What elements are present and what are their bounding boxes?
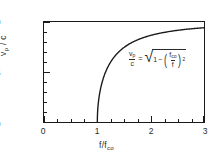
y-tick-label-1: 1.0 [0,17,1,27]
x-tick-label-2: 1 [95,126,100,136]
x-tick-label-3: 2 [149,126,154,136]
equation-inner-numerator: fco [168,51,177,60]
equation-inner-num-sub: co [171,53,176,59]
plot-area [43,21,205,123]
x-axis-title-main: f/f [99,140,107,150]
equation-annotation: vp c = √ 1 − ( fco f ) 2 [128,49,186,68]
y-tick-label-3: 0.0 [0,119,1,129]
equation-minus: − [158,56,162,63]
y-major-tick-0.0 [44,122,50,123]
curve-polyline [97,28,204,122]
equation-lhs-num-sub: p [133,52,136,58]
equation-inner-denominator: f [171,60,175,68]
equation-paren-close: ) [178,53,181,67]
y-axis-title: vp / c [0,35,9,56]
equation-paren-open: ( [164,53,167,67]
x-axis-title: f/fco [0,140,213,151]
chart-figure: vp / c 1.0 0.5 0.0 0 1 2 3 f/fco [0,0,213,155]
equation-lhs-denominator: c [129,59,135,67]
x-axis-title-subscript: co [107,144,114,151]
equation-equals-sign: = [138,55,142,62]
y-axis-title-rest: / c [0,35,8,48]
y-axis-title-main: v [0,51,8,56]
equation-radicand: 1 − ( fco f ) 2 [152,49,186,68]
y-tick-label-2: 0.5 [0,68,1,78]
y-axis-title-subscript: p [2,48,9,52]
equation-lhs-numerator: vp [128,50,136,59]
equation-exponent: 2 [182,57,185,62]
curve-phase-velocity [44,22,204,122]
x-tick-label-4: 3 [203,126,208,136]
x-tick-label-1: 0 [41,126,46,136]
equation-radical: √ 1 − ( fco f ) 2 [144,49,186,68]
equation-lhs-fraction: vp c [128,50,136,67]
equation-inner-fraction: fco f [168,51,177,68]
equation-one: 1 [153,56,157,63]
